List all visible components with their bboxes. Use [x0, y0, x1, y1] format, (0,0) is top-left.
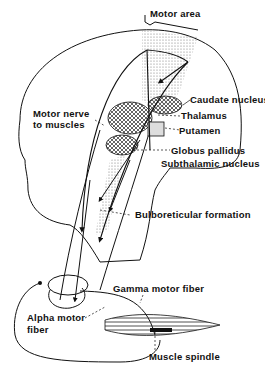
muscle-spindle-shape: [150, 328, 172, 332]
thalamus: [108, 102, 152, 134]
label-alpha-motor-line2: fiber: [27, 325, 49, 335]
label-gamma-motor-fiber: Gamma motor fiber: [113, 284, 204, 294]
label-caudate-nucleus: Caudate nucleus: [190, 95, 265, 105]
label-motor-nerve-line2: to muscles: [33, 120, 85, 130]
label-putamen: Putamen: [179, 126, 221, 136]
caudate-nucleus: [148, 96, 182, 114]
globus-pallidus: [106, 135, 138, 155]
label-globus-pallidus: Globus pallidus: [171, 146, 245, 156]
label-subthalamic-nucleus: Subthalamic nucleus: [161, 159, 260, 169]
label-thalamus: Thalamus: [181, 111, 227, 121]
spinal-segment: [48, 275, 88, 295]
label-motor-nerve-line1: Motor nerve: [33, 109, 90, 119]
spinal-cord-left: [60, 130, 100, 300]
label-muscle-spindle: Muscle spindle: [149, 352, 220, 362]
label-motor-area: Motor area: [150, 9, 201, 19]
muscle-body: [105, 315, 220, 336]
putamen: [148, 122, 164, 136]
label-alpha-motor-line1: Alpha motor: [27, 313, 85, 323]
label-bulboreticular-formation: Bulboreticular formation: [135, 210, 251, 220]
